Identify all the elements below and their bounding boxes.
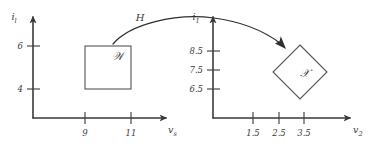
figure-canvas: 6 4 9 11 il vs H [0, 0, 377, 149]
mapping-label-h: H [135, 12, 145, 23]
right-plot-x-axis-label: v2 [353, 124, 363, 138]
mapping-arrow-head [275, 36, 286, 49]
set-label-w: 𝒲 [112, 50, 126, 63]
set-mapping-figure: 6 4 9 11 il vs H [0, 0, 377, 149]
right-plot-group: 8.5 7.5 6.5 1.5 2.5 3.5 i1 v2 [189, 11, 362, 138]
set-label-x: 𝒳 [300, 67, 313, 80]
right-plot-x-tick-label-25: 2.5 [271, 128, 286, 138]
right-plot-x-tick-label-15: 1.5 [246, 128, 260, 138]
right-plot-y-tick-label-85: 8.5 [189, 46, 203, 56]
left-plot-region-w [85, 46, 131, 89]
left-plot-group: 6 4 9 11 il vs [11, 11, 177, 138]
left-plot-y-tick-label-6: 6 [18, 41, 24, 51]
right-plot-y-tick-label-75: 7.5 [189, 65, 203, 75]
right-plot-y-axis-label: i1 [192, 11, 199, 25]
right-plot-y-tick-label-65: 6.5 [189, 84, 203, 94]
left-plot-x-tick-label-11: 11 [126, 128, 137, 138]
left-plot-x-axis-label: vs [168, 124, 177, 138]
right-plot-x-axis-label-subscript: 2 [357, 130, 362, 138]
left-plot-y-tick-label-4: 4 [17, 84, 23, 94]
right-plot-x-tick-label-35: 3.5 [297, 128, 311, 138]
left-plot-x-tick-label-9: 9 [82, 128, 88, 138]
left-plot-y-axis-label-subscript: l [14, 17, 16, 25]
right-plot-y-axis-label-subscript: 1 [195, 17, 199, 25]
left-plot-y-axis-label: il [11, 11, 16, 25]
left-plot-x-axis-label-subscript: s [173, 130, 177, 138]
